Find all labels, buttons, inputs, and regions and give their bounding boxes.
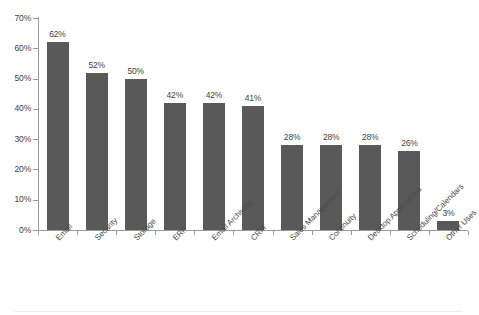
y-axis-tick-label: 50% (0, 74, 31, 83)
bottom-rule (14, 311, 462, 312)
y-axis-tick-label-text: 10% (0, 195, 31, 204)
y-axis-tick-label: 10% (0, 195, 31, 204)
x-axis-tick (233, 231, 234, 235)
bar-value-label: 28% (272, 133, 312, 142)
y-axis-tick (33, 169, 38, 170)
y-axis-tick-label-text: 20% (0, 165, 31, 174)
x-axis-tick (351, 231, 352, 235)
y-axis-tick-label: 70% (0, 14, 31, 23)
y-axis-tick-label: 40% (0, 104, 31, 113)
x-axis-tick (390, 231, 391, 235)
bar-value-label: 28% (350, 133, 390, 142)
y-axis-tick-label: 20% (0, 165, 31, 174)
y-axis-tick (33, 109, 38, 110)
y-axis-tick-label-text: 70% (0, 14, 31, 23)
y-axis-tick (33, 18, 38, 19)
y-axis-tick (33, 79, 38, 80)
bar-value-label: 42% (155, 91, 195, 100)
x-axis-tick (38, 231, 39, 235)
bar (320, 145, 342, 230)
y-axis-tick-label: 0% (0, 226, 31, 235)
y-axis-tick-label-text: 0% (0, 226, 31, 235)
bar (203, 103, 225, 230)
y-axis-tick-label-text: 50% (0, 74, 31, 83)
y-axis-tick (33, 200, 38, 201)
x-axis-tick (468, 231, 469, 235)
bar-value-label: 62% (38, 30, 78, 39)
y-axis-tick (33, 139, 38, 140)
y-axis-line (38, 17, 39, 231)
x-axis-tick (312, 231, 313, 235)
y-axis-tick-label-text: 30% (0, 135, 31, 144)
x-axis-tick (273, 231, 274, 235)
bar (47, 42, 69, 230)
bar-value-label: 28% (311, 133, 351, 142)
y-axis-tick-label: 30% (0, 135, 31, 144)
bar-value-label: 42% (194, 91, 234, 100)
bar (86, 73, 108, 230)
y-axis-tick-label-text: 60% (0, 44, 31, 53)
y-axis-tick (33, 48, 38, 49)
x-axis-tick (116, 231, 117, 235)
bar (164, 103, 186, 230)
x-axis-tick (155, 231, 156, 235)
y-axis-tick-label-text: 40% (0, 104, 31, 113)
bar (125, 79, 147, 230)
bar (359, 145, 381, 230)
bar-value-label: 26% (389, 139, 429, 148)
x-axis-tick (429, 231, 430, 235)
bar-value-label: 50% (116, 67, 156, 76)
y-axis-tick-label: 60% (0, 44, 31, 53)
bar (281, 145, 303, 230)
bar-value-label: 52% (77, 61, 117, 70)
x-axis-tick (194, 231, 195, 235)
x-axis-tick (77, 231, 78, 235)
bar-value-label: 41% (233, 94, 273, 103)
